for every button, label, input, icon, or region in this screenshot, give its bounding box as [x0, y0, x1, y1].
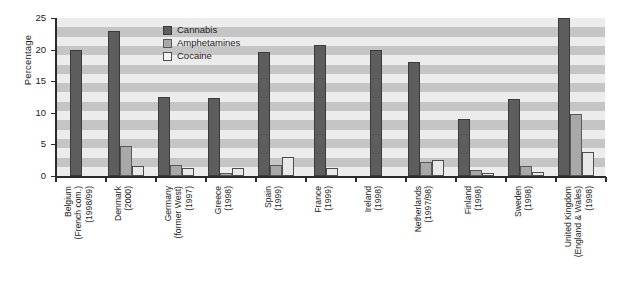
x-tick-mark: [155, 177, 157, 182]
legend-label-cannabis: Cannabis: [177, 25, 217, 35]
legend-label-cocaine: Cocaine: [177, 51, 212, 61]
x-category-label: Belgium(French com.)(1998/99): [63, 186, 94, 296]
bar-cannabis: [158, 97, 170, 176]
x-category-label: Sweden(1998): [513, 186, 534, 296]
bar-cocaine: [582, 152, 594, 176]
legend-item-cannabis: Cannabis: [163, 24, 240, 36]
legend-swatch-cocaine-icon: [163, 52, 172, 61]
x-category-label-line: (1997): [184, 186, 194, 296]
x-axis-line: [55, 176, 606, 178]
bar-group: [255, 18, 305, 176]
plot-area: [55, 18, 605, 176]
bar-cannabis: [258, 52, 270, 177]
bar-cannabis: [70, 50, 82, 176]
bar-cannabis: [108, 31, 120, 176]
bar-group: [305, 18, 355, 176]
x-category-label: Finland(1998): [463, 186, 484, 296]
x-tick-mark: [55, 177, 57, 182]
y-tick-label: 20: [20, 45, 46, 55]
x-category-label-line: (1999): [273, 186, 283, 296]
bar-group: [455, 18, 505, 176]
bar-cannabis: [508, 99, 520, 176]
y-tick-label: 10: [20, 108, 46, 118]
x-category-label: Greece(1998): [213, 186, 234, 296]
x-tick-mark: [555, 177, 557, 182]
x-category-label-line: (1998/99): [84, 186, 94, 296]
bar-cocaine: [326, 168, 338, 176]
x-tick-mark: [505, 177, 507, 182]
y-tick-label: 5: [20, 139, 46, 149]
legend-item-amphetamines: Amphetamines: [163, 37, 240, 49]
bar-amphetamines: [420, 162, 432, 176]
x-category-label-line: (1998): [223, 186, 233, 296]
legend-swatch-amphetamines-icon: [163, 39, 172, 48]
x-category-label-line: Belgium: [63, 186, 73, 296]
x-category-label: United Kingdom(England & Wales)(1998): [563, 186, 594, 296]
x-category-label-line: (1998): [373, 186, 383, 296]
x-tick-mark: [205, 177, 207, 182]
bar-group: [405, 18, 455, 176]
x-category-label-line: (1998): [473, 186, 483, 296]
x-category-label: Spain(1999): [263, 186, 284, 296]
y-tick-label: 0: [20, 171, 46, 181]
y-tick-label: 25: [20, 13, 46, 23]
legend-swatch-cannabis-icon: [163, 26, 172, 35]
legend-item-cocaine: Cocaine: [163, 50, 240, 62]
bar-cannabis: [208, 98, 220, 176]
x-category-label: France(1999): [313, 186, 334, 296]
legend-label-amphetamines: Amphetamines: [177, 38, 240, 48]
x-category-label: Ireland(1998): [363, 186, 384, 296]
x-category-label: Netherlands(1997/98): [413, 186, 434, 296]
x-category-label-line: Sweden: [513, 186, 523, 296]
bar-amphetamines: [120, 146, 132, 176]
bar-cocaine: [282, 157, 294, 176]
x-category-label-line: Greece: [213, 186, 223, 296]
x-category-label-line: Denmark: [113, 186, 123, 296]
bar-cannabis: [558, 18, 570, 176]
bar-cannabis: [370, 50, 382, 176]
x-category-label: Germany(former West)(1997): [163, 186, 194, 296]
x-category-label-line: (England & Wales): [573, 186, 583, 296]
x-tick-mark: [355, 177, 357, 182]
x-category-label-line: (French com.): [73, 186, 83, 296]
bar-cannabis: [458, 119, 470, 176]
bar-amphetamines: [170, 165, 182, 176]
x-tick-mark: [605, 177, 607, 182]
bar-group: [55, 18, 105, 176]
bar-cannabis: [314, 45, 326, 176]
bar-chart-figure: Percentage 0510152025 Belgium(French com…: [0, 0, 622, 302]
x-category-label-line: France: [313, 186, 323, 296]
x-category-label-line: Finland: [463, 186, 473, 296]
x-category-label: Denmark(2000): [113, 186, 134, 296]
bar-amphetamines: [570, 114, 582, 176]
bar-cocaine: [182, 168, 194, 176]
x-category-label-line: (1998): [584, 186, 594, 296]
bar-amphetamines: [520, 166, 532, 176]
y-tick-label: 15: [20, 76, 46, 86]
x-tick-mark: [455, 177, 457, 182]
bar-cannabis: [408, 62, 420, 176]
x-tick-mark: [255, 177, 257, 182]
x-category-label-line: United Kingdom: [563, 186, 573, 296]
x-tick-mark: [305, 177, 307, 182]
bar-amphetamines: [270, 165, 282, 176]
bar-group: [105, 18, 155, 176]
x-category-label-line: Netherlands: [413, 186, 423, 296]
y-axis-line: [55, 18, 57, 177]
x-tick-mark: [405, 177, 407, 182]
x-category-label-line: (1999): [323, 186, 333, 296]
x-category-label-line: (1998): [523, 186, 533, 296]
bar-group: [355, 18, 405, 176]
x-category-label-line: (former West): [173, 186, 183, 296]
x-category-label-line: (2000): [123, 186, 133, 296]
bar-group: [505, 18, 555, 176]
bar-cocaine: [432, 160, 444, 176]
bar-cocaine: [232, 168, 244, 176]
x-category-label-line: (1997/98): [423, 186, 433, 296]
bar-cocaine: [132, 166, 144, 176]
x-category-label-line: Ireland: [363, 186, 373, 296]
x-tick-mark: [105, 177, 107, 182]
x-category-label-line: Germany: [163, 186, 173, 296]
legend: Cannabis Amphetamines Cocaine: [163, 24, 240, 62]
x-category-label-line: Spain: [263, 186, 273, 296]
